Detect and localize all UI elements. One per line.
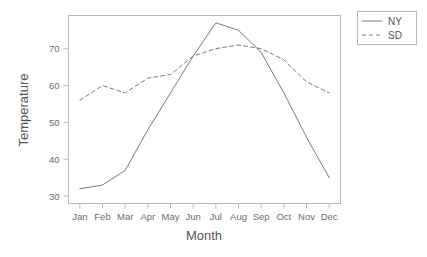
- x-tick-label: Jun: [186, 211, 201, 222]
- x-axis-title: Month: [186, 228, 222, 243]
- legend-box: [358, 12, 417, 45]
- legend-label-sd: SD: [388, 30, 402, 41]
- y-tick-label: 40: [49, 154, 60, 165]
- y-axis-tickmarks: [64, 49, 69, 196]
- x-tick-label: Dec: [321, 211, 338, 222]
- chart-canvas: 3040506070 JanFebMarAprMayJunJulAugSepOc…: [0, 0, 427, 257]
- legend-label-ny: NY: [388, 16, 402, 27]
- y-tick-label: 70: [49, 43, 60, 54]
- x-tick-label: Aug: [230, 211, 247, 222]
- series-line-sd: [80, 45, 329, 100]
- temperature-line-chart-figure: 3040506070 JanFebMarAprMayJunJulAugSepOc…: [0, 0, 427, 257]
- y-axis-title: Temperature: [16, 74, 31, 147]
- x-axis-tickmarks: [80, 204, 329, 209]
- x-axis-tick-labels: JanFebMarAprMayJunJulAugSepOctNovDec: [72, 211, 338, 222]
- x-tick-label: Nov: [298, 211, 315, 222]
- x-tick-label: Jan: [72, 211, 87, 222]
- x-tick-label: May: [162, 211, 180, 222]
- y-tick-label: 30: [49, 191, 60, 202]
- x-tick-label: Oct: [276, 211, 291, 222]
- x-tick-label: Sep: [253, 211, 270, 222]
- chart-legend: NY SD: [358, 12, 417, 45]
- x-tick-label: Apr: [140, 211, 155, 222]
- x-tick-label: Mar: [117, 211, 133, 222]
- y-axis-tick-labels: 3040506070: [49, 43, 60, 201]
- y-tick-label: 60: [49, 80, 60, 91]
- plot-frame: [69, 16, 341, 204]
- y-tick-label: 50: [49, 117, 60, 128]
- data-series-group: [80, 23, 329, 189]
- series-line-ny: [80, 23, 329, 189]
- x-tick-label: Jul: [210, 211, 222, 222]
- x-tick-label: Feb: [94, 211, 110, 222]
